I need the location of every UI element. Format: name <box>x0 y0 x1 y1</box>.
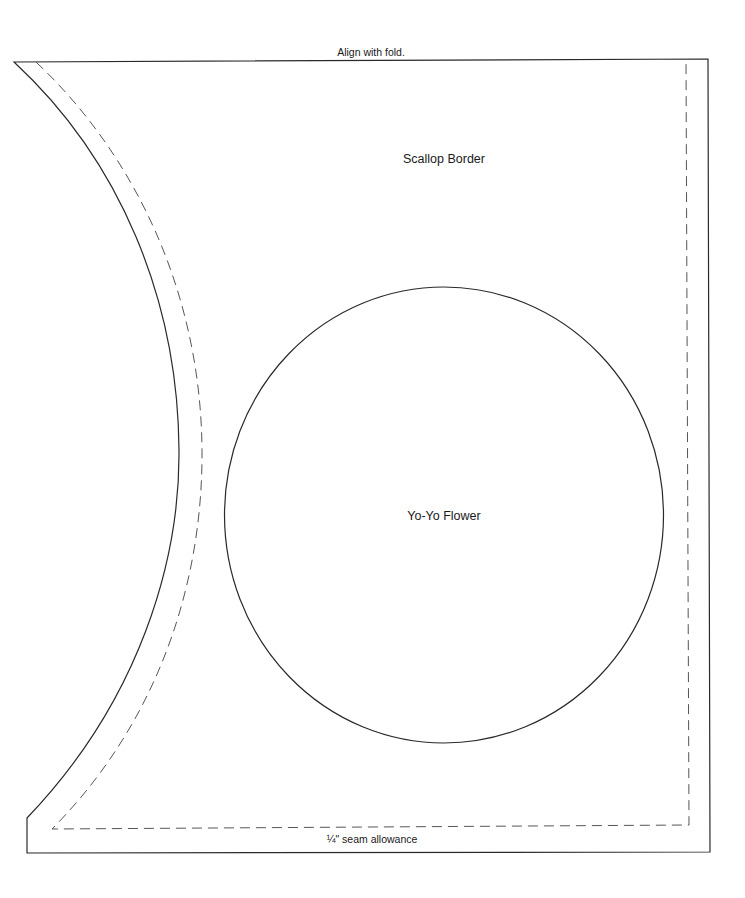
piece-name-label: Scallop Border <box>403 152 485 166</box>
scallop-border-cut-line <box>14 59 710 853</box>
seam-allowance-label: ¼" seam allowance <box>327 833 418 845</box>
seam-allowance-line <box>36 60 689 829</box>
fold-label: Align with fold. <box>337 46 405 58</box>
circle-name-label: Yo-Yo Flower <box>407 509 480 523</box>
pattern-sheet: Align with fold. Scallop Border Yo-Yo Fl… <box>0 0 745 898</box>
pattern-drawing <box>0 0 745 898</box>
